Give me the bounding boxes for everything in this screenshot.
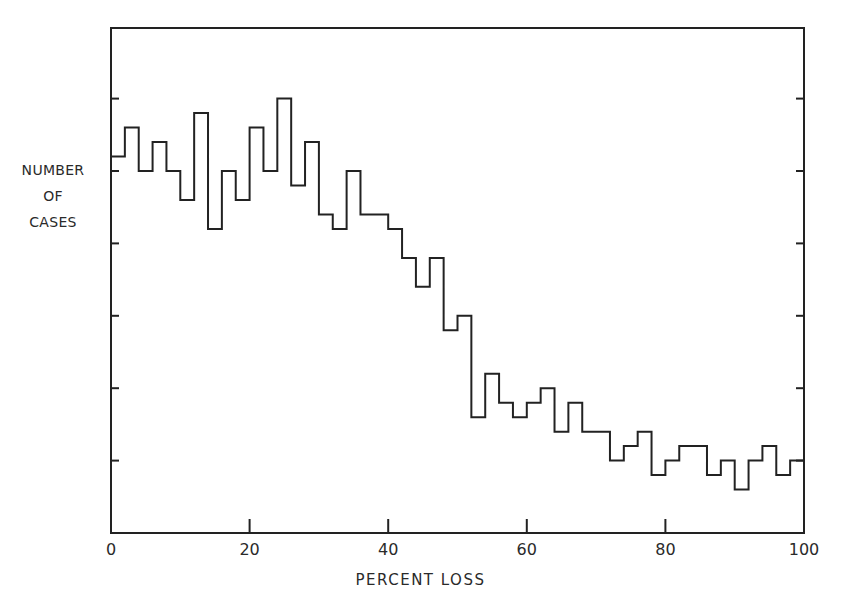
x-tick-label: 40 [378,540,398,559]
x-tick-label: 100 [789,540,820,559]
y-axis-label-line-3: CASES [8,209,98,235]
plot-frame [111,28,804,533]
y-axis-ticks [111,99,804,461]
y-axis-label-line-2: OF [8,183,98,209]
x-tick-label: 60 [517,540,537,559]
x-tick-label: 0 [106,540,116,559]
x-tick-label: 20 [239,540,259,559]
histogram-chart [0,0,841,612]
x-tick-label: 80 [655,540,675,559]
x-axis-ticks [250,519,666,533]
x-axis-label: PERCENT LOSS [0,571,841,589]
y-axis-label: NUMBER OF CASES [8,157,98,235]
histogram-step-line [111,99,804,490]
y-axis-label-line-1: NUMBER [8,157,98,183]
